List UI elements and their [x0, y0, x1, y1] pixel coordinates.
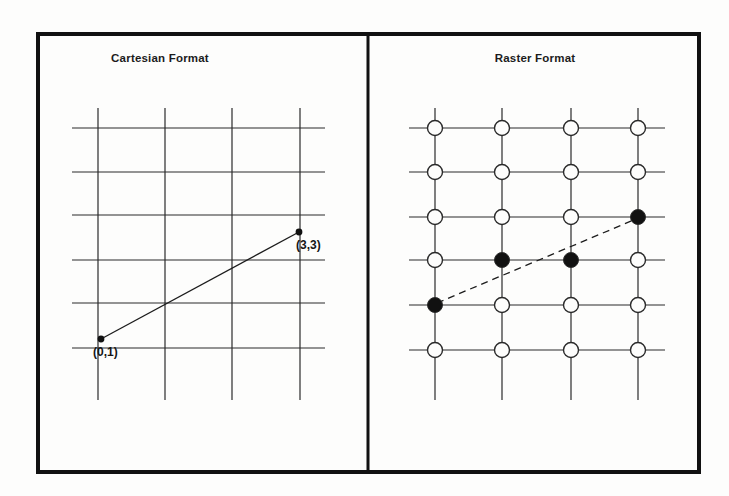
cartesian-panel-title: Cartesian Format	[111, 52, 209, 64]
cartesian-point-label-lower: (0,1)	[93, 345, 118, 359]
raster-panel-title: Raster Format	[495, 52, 576, 64]
raster-cell-group	[428, 121, 646, 358]
cartesian-endpoint-dot	[296, 229, 303, 236]
raster-cell-empty	[564, 210, 579, 225]
raster-cell-empty	[495, 298, 510, 313]
raster-cell-filled	[428, 298, 443, 313]
raster-reference-dashed-line	[437, 219, 636, 303]
cartesian-vector-line	[101, 232, 299, 339]
raster-cell-empty	[428, 210, 443, 225]
raster-cell-filled	[495, 253, 510, 268]
raster-cell-empty	[631, 298, 646, 313]
figure-canvas	[0, 0, 729, 496]
raster-cell-empty	[631, 165, 646, 180]
cartesian-endpoint-dot	[98, 336, 105, 343]
cartesian-point-label-upper: (3,3)	[296, 238, 321, 252]
raster-cell-empty	[495, 210, 510, 225]
raster-cell-empty	[564, 298, 579, 313]
raster-cell-empty	[428, 165, 443, 180]
raster-cell-empty	[564, 343, 579, 358]
raster-cell-empty	[631, 343, 646, 358]
raster-cell-empty	[428, 343, 443, 358]
raster-cell-empty	[495, 343, 510, 358]
raster-cell-empty	[564, 165, 579, 180]
raster-cell-filled	[564, 253, 579, 268]
raster-cell-empty	[495, 121, 510, 136]
raster-grid	[409, 108, 665, 400]
raster-cell-empty	[631, 253, 646, 268]
raster-cell-empty	[631, 121, 646, 136]
raster-cell-empty	[564, 121, 579, 136]
raster-cell-empty	[495, 165, 510, 180]
figure-root: Cartesian Format Raster Format (3,3) (0,…	[0, 0, 729, 496]
raster-cell-empty	[428, 121, 443, 136]
raster-cell-filled	[631, 210, 646, 225]
raster-cell-empty	[428, 253, 443, 268]
